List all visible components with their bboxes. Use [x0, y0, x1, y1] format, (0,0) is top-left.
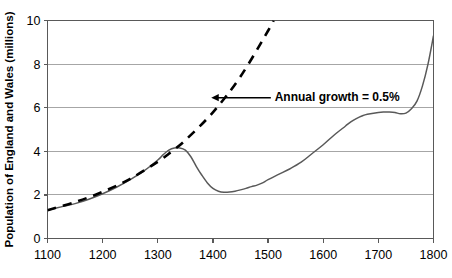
y-tick-label: 10 — [27, 14, 41, 28]
y-tick-label: 8 — [34, 58, 41, 72]
y-tick-label: 0 — [34, 232, 41, 246]
x-tick-label: 1100 — [34, 248, 61, 262]
x-tick-label: 1800 — [420, 248, 448, 262]
plot-frame — [48, 21, 434, 239]
series-line-growth-trend — [48, 21, 274, 211]
annotation-arrow-head — [211, 94, 219, 101]
chart-canvas: 024681011001200130014001500160017001800P… — [0, 0, 452, 278]
series-line-population — [48, 36, 434, 210]
x-tick-label: 1400 — [199, 248, 227, 262]
y-tick-label: 2 — [34, 188, 41, 202]
x-tick-label: 1200 — [89, 248, 117, 262]
x-tick-label: 1500 — [254, 248, 282, 262]
population-chart: 024681011001200130014001500160017001800P… — [0, 0, 452, 278]
y-axis-title: Population of England and Wales (million… — [3, 11, 15, 247]
x-tick-label: 1300 — [144, 248, 172, 262]
y-tick-label: 4 — [34, 145, 41, 159]
annotation-label-annual-growth: Annual growth = 0.5% — [275, 90, 400, 104]
x-tick-label: 1700 — [364, 248, 392, 262]
y-tick-label: 6 — [34, 101, 41, 115]
x-tick-label: 1600 — [309, 248, 337, 262]
